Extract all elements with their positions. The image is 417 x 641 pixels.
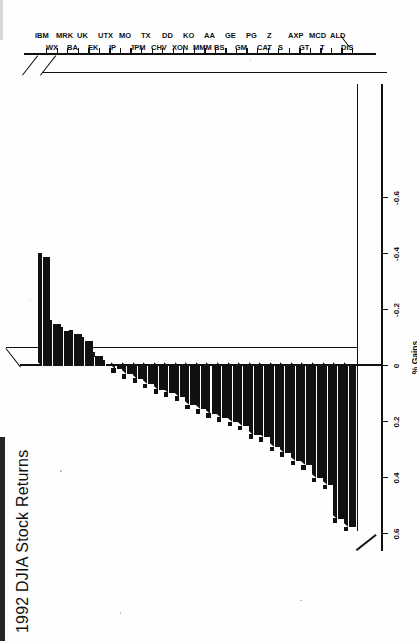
bar-highlight-edge [200,366,201,409]
value-axis-tick [381,309,388,310]
bar-highlight-edge [263,366,264,437]
category-axis-label: CAT [257,43,272,52]
bar-highlight-edge [221,366,222,418]
category-axis-label: GE [225,31,236,40]
bar-end-face [164,392,168,397]
bar-highlight-edge [63,331,64,366]
bar-end-face [259,437,263,442]
category-axis-label: XON [172,43,188,52]
category-axis-label: KO [183,31,194,40]
bar [306,366,315,465]
screenshot-page: 1992 DJIA Stock Returns 0.60.40.20-0.2-0… [0,0,417,641]
category-axis-tick [225,48,226,55]
category-axis-tick [320,48,321,55]
bar [221,366,230,418]
category-axis-tick [215,48,216,55]
bar [116,366,125,369]
bar-end-face [143,384,147,389]
bar-highlight-edge [137,366,138,379]
bar-end-face [249,434,253,439]
value-axis-tick [381,197,388,198]
bar-end-face [238,426,242,431]
bar-end-face [301,465,305,470]
category-axis-label: CHV [151,43,167,52]
bar-highlight-edge [337,366,338,519]
bar [274,366,283,447]
bar-highlight-edge [158,366,159,390]
category-axis-label: DIS [341,43,354,52]
scan-speckle [300,600,302,601]
value-axis-tick [381,365,388,366]
bar [126,366,135,374]
category-axis-cap [22,51,46,75]
category-axis-label: MCD [309,31,326,40]
bar-end-face [280,452,284,457]
bar [232,366,241,422]
category-axis-label: IBM [35,31,49,40]
category-axis-label: TX [141,31,151,40]
bar-end-face [323,485,327,490]
category-axis-label: JPM [130,43,145,52]
category-axis-label: MMM [193,43,212,52]
category-axis-rail-back [42,72,387,73]
category-axis-label: ALD [330,31,345,40]
bar-end-face [133,378,137,383]
bar-highlight-edge [168,366,169,393]
value-axis-tick-label: -0.6 [392,178,401,218]
bar-highlight-edge [295,366,296,461]
category-axis-tick [67,48,68,55]
category-axis-label: AA [204,31,215,40]
category-axis-tick [299,48,300,55]
bar [211,366,220,414]
category-axis-tick [278,48,279,55]
category-axis-label: UK [77,31,88,40]
value-axis-tick-label: 0.4 [392,458,401,498]
category-axis-tick [257,48,258,55]
bar-end-face [196,409,200,414]
value-axis-tick [381,533,388,534]
bar-highlight-edge [348,366,349,527]
value-axis-tick-label: -0.2 [392,290,401,330]
bar [337,366,346,519]
category-axis-tick [194,48,195,55]
value-axis-tick-label: 0.2 [392,402,401,442]
axis-left-cap [357,529,382,551]
bar [179,366,188,397]
value-axis-title-text: % Gains [410,341,417,375]
bar-highlight-edge [179,366,180,397]
bar-end-face [38,253,42,258]
category-axis-tick [173,48,174,55]
bar [284,366,293,453]
bar [295,366,304,461]
bar-highlight-edge [189,366,190,405]
bar [200,366,209,409]
bar [137,366,146,379]
category-axis-label: MO [119,31,131,40]
bar [147,366,156,384]
scan-speckle [250,60,251,61]
bar [158,366,167,390]
value-axis-tick-label: 0.6 [392,514,401,554]
bar-highlight-edge [52,324,53,366]
bar-highlight-edge [42,257,43,366]
bar-highlight-edge [73,334,74,366]
bar-highlight-edge [210,366,211,414]
bar-end-face [206,413,210,418]
bar-highlight-edge [316,366,317,478]
category-axis-tick [109,48,110,55]
bar [253,366,262,435]
bar-end-face [228,422,232,427]
bar-highlight-edge [305,366,306,465]
bar [316,366,325,478]
rotated-chart-wrapper: 1992 DJIA Stock Returns 0.60.40.20-0.2-0… [0,0,417,641]
bar-end-face [185,405,189,410]
bar [168,366,177,393]
bar-end-face [122,374,126,379]
scan-speckle [30,300,31,301]
category-axis-tick [46,48,47,55]
bar-end-face [154,389,158,394]
bar [73,334,82,366]
bar-end-face [333,518,337,523]
category-axis-tick [236,48,237,55]
bar-highlight-edge [274,366,275,447]
